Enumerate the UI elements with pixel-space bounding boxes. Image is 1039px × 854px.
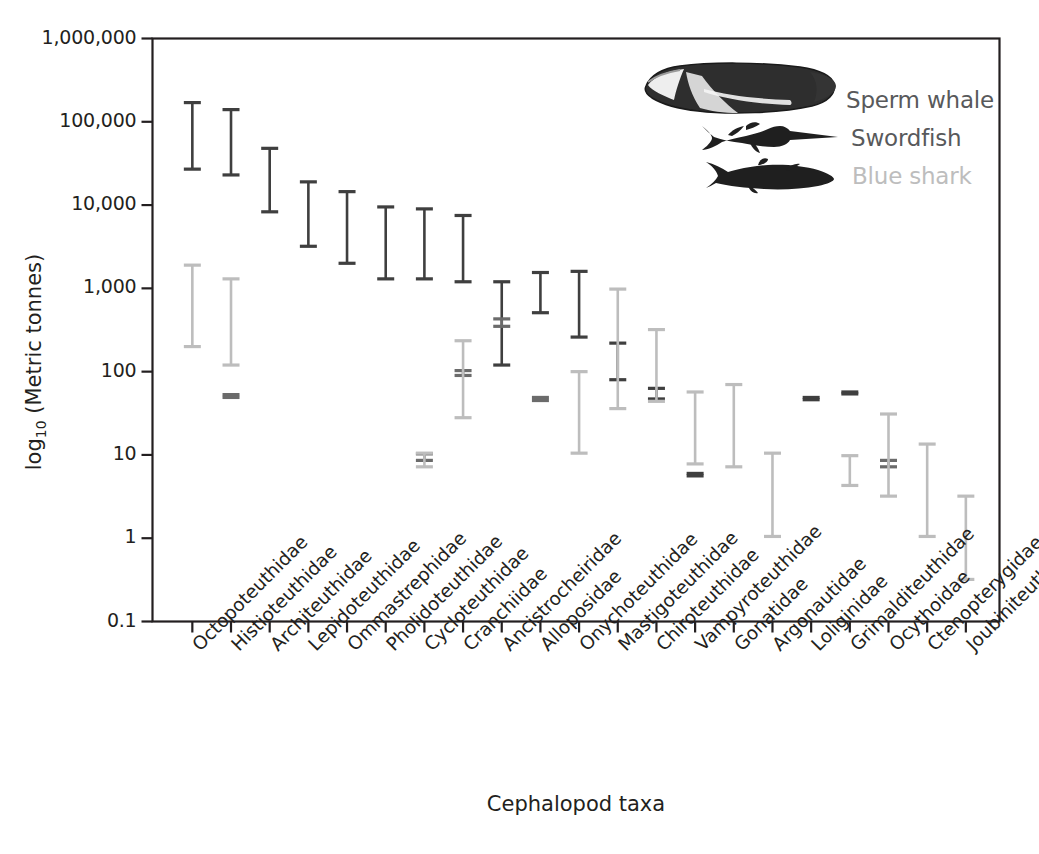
interval-bar [223, 110, 240, 175]
y-tick-label: 0.1 [107, 609, 137, 631]
interval-bar [803, 397, 820, 399]
interval-bar [300, 182, 317, 246]
legend-label-sperm-whale: Sperm whale [846, 87, 994, 113]
legend-label-swordfish: Swordfish [851, 125, 961, 151]
y-axis-title-unit: (Metric tonnes) [22, 254, 46, 414]
y-tick-label: 10 [113, 442, 137, 464]
interval-bar [377, 207, 394, 279]
interval-bar [687, 392, 704, 464]
interval-bar [880, 414, 897, 496]
y-tick-label: 10,000 [71, 192, 136, 214]
y-axis-ticks [142, 39, 153, 622]
interval-bar [841, 392, 858, 394]
interval-bar [919, 444, 936, 536]
interval-bar [261, 148, 278, 211]
y-tick-label: 100,000 [59, 109, 136, 131]
interval-bar [532, 397, 549, 400]
y-tick-label: 100 [101, 359, 137, 381]
interval-bar [687, 473, 704, 475]
interval-bar [455, 215, 472, 281]
swordfish-icon [698, 120, 841, 156]
interval-bar [184, 103, 201, 170]
chart-figure: 1,000,000100,00010,0001,0001001010.1 Oct… [0, 0, 1039, 854]
interval-bar [841, 456, 858, 486]
legend-entry-swordfish: Swordfish [698, 120, 961, 156]
interval-bar [455, 341, 472, 418]
interval-bar [223, 395, 240, 398]
interval-bar [339, 192, 356, 264]
legend-entry-sperm-whale: Sperm whale [640, 58, 994, 124]
interval-bar [571, 372, 588, 454]
legend-entry-blue-shark: Blue shark [702, 158, 972, 194]
y-axis-title: log10 (Metric tonnes) [22, 232, 49, 492]
sperm-whale-icon [640, 58, 840, 124]
interval-bar [764, 453, 781, 536]
interval-bar [532, 273, 549, 313]
legend-label-blue-shark: Blue shark [852, 163, 972, 189]
interval-bar [416, 209, 433, 279]
chart-legend: Sperm whale Swordfish Blue shark [640, 58, 990, 198]
interval-bar [571, 271, 588, 337]
interval-bar [725, 385, 742, 467]
y-tick-label: 1,000,000 [42, 26, 137, 48]
interval-bar [184, 265, 201, 346]
interval-bar [223, 279, 240, 365]
interval-bar [493, 319, 510, 326]
y-axis-title-subscript: 10 [33, 420, 49, 438]
x-axis-title: Cephalopod taxa [152, 792, 1000, 816]
interval-bar [609, 289, 626, 409]
blue-shark-icon [702, 158, 842, 194]
interval-bar [648, 330, 665, 402]
y-axis-title-base: log [22, 438, 46, 470]
y-tick-label: 1 [125, 525, 137, 547]
y-tick-label: 1,000 [83, 275, 136, 297]
